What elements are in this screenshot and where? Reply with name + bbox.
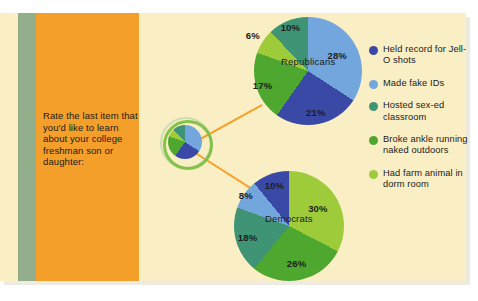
slice-label: 10%	[265, 180, 285, 191]
slice-label: 8%	[239, 190, 253, 201]
source-pie-thumbnail	[160, 116, 210, 171]
slice-label: 18%	[238, 232, 258, 243]
sage-accent-strip	[18, 13, 36, 281]
legend-item-label: Broke ankle running naked outdoors	[383, 134, 469, 157]
slice-label: 17%	[253, 80, 273, 91]
legend-item[interactable]: Had farm animal in dorm room	[369, 168, 469, 191]
slice-label: 28%	[327, 50, 347, 61]
page-edge-shadow-bottom	[4, 281, 470, 285]
slice-label: 6%	[246, 30, 260, 41]
legend-dot-icon	[369, 102, 378, 111]
legend-item-label: Had farm animal in dorm room	[383, 168, 469, 191]
legend-item-label: Held record for Jell-O shots	[383, 44, 469, 67]
slice-label: 21%	[306, 107, 326, 118]
legend-item[interactable]: Made fake IDs	[369, 78, 469, 89]
legend-dot-icon	[369, 136, 378, 145]
pie-title-democrats: Democrats	[265, 213, 313, 224]
legend-dot-icon	[369, 170, 378, 179]
legend-item-label: Hosted sex-ed classroom	[383, 100, 469, 123]
legend-dot-icon	[369, 46, 378, 55]
legend-item-label: Made fake IDs	[383, 78, 444, 89]
legend-item[interactable]: Hosted sex-ed classroom	[369, 100, 469, 123]
question-text: Rate the last item that you'd like to le…	[43, 110, 139, 168]
thumbnail-pie-icon	[168, 125, 202, 159]
slice-label: 10%	[281, 22, 301, 33]
infographic-canvas: Rate the last item that you'd like to le…	[0, 0, 478, 301]
legend-dot-icon	[369, 80, 378, 89]
legend: Held record for Jell-O shots Made fake I…	[369, 44, 469, 202]
legend-item[interactable]: Broke ankle running naked outdoors	[369, 134, 469, 157]
slice-label: 30%	[308, 203, 328, 214]
slice-label: 26%	[287, 258, 307, 269]
legend-item[interactable]: Held record for Jell-O shots	[369, 44, 469, 67]
